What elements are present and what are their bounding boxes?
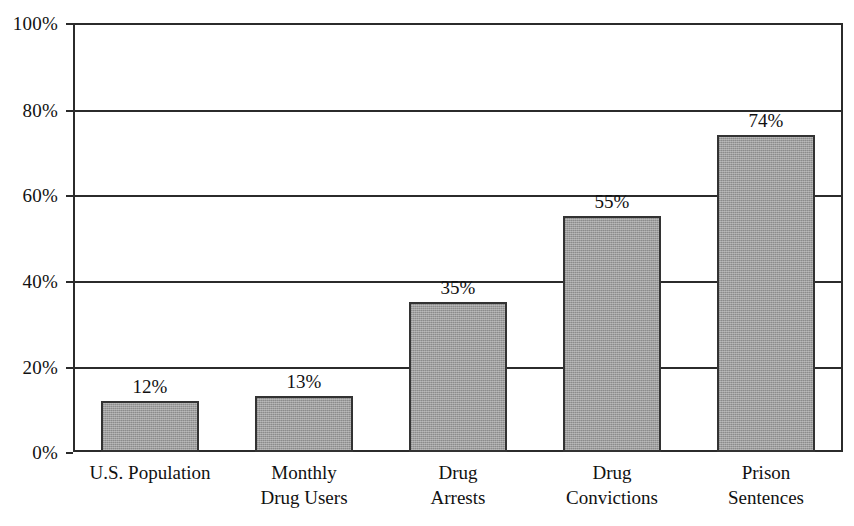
y-axis-tick-20: [66, 367, 73, 369]
bar-slot-drug-arrests: 35%: [381, 23, 535, 452]
y-axis-tick-label-0: 0%: [0, 443, 58, 462]
bar-value-drug-arrests: 35%: [381, 278, 535, 297]
x-axis-label-line: Drug Users: [227, 485, 381, 510]
x-axis-label-drug-arrests: DrugArrests: [381, 460, 535, 510]
x-axis-label-line: Convictions: [535, 485, 689, 510]
bar-slot-drug-convictions: 55%: [535, 23, 689, 452]
bar-monthly-drug-users[interactable]: [255, 396, 353, 452]
bar-value-drug-convictions: 55%: [535, 192, 689, 211]
bar-slot-monthly-drug-users: 13%: [227, 23, 381, 452]
y-axis-tick-100: [66, 23, 73, 25]
bar-chart: 100% 80% 60% 40% 20% 0% 12% 13% 35% 55%: [0, 0, 854, 526]
bar-prison-sentences[interactable]: [717, 135, 815, 452]
y-axis-tick-label-80: 80%: [0, 101, 58, 120]
x-axis-label-line: U.S. Population: [73, 460, 227, 485]
x-axis-label-prison-sentences: PrisonSentences: [689, 460, 843, 510]
x-axis-label-line: Drug: [535, 460, 689, 485]
bar-value-us-population: 12%: [73, 377, 227, 396]
y-axis-tick-label-100: 100%: [0, 14, 58, 33]
x-axis-label-monthly-drug-users: MonthlyDrug Users: [227, 460, 381, 510]
x-axis-label-line: Sentences: [689, 485, 843, 510]
bar-value-prison-sentences: 74%: [689, 111, 843, 130]
x-axis-labels: U.S. Population MonthlyDrug Users DrugAr…: [73, 460, 843, 520]
x-axis-label-drug-convictions: DrugConvictions: [535, 460, 689, 510]
x-axis-label-us-population: U.S. Population: [73, 460, 227, 485]
x-axis-label-line: Prison: [689, 460, 843, 485]
x-axis-label-line: Arrests: [381, 485, 535, 510]
bar-drug-convictions[interactable]: [563, 216, 661, 452]
bar-us-population[interactable]: [101, 401, 199, 452]
x-axis-label-line: Monthly: [227, 460, 381, 485]
y-axis-tick-label-60: 60%: [0, 186, 58, 205]
bar-slot-prison-sentences: 74%: [689, 23, 843, 452]
y-axis-tick-40: [66, 281, 73, 283]
y-axis-tick-label-40: 40%: [0, 272, 58, 291]
bar-drug-arrests[interactable]: [409, 302, 507, 452]
bar-value-monthly-drug-users: 13%: [227, 372, 381, 391]
x-axis-label-line: Drug: [381, 460, 535, 485]
bar-slot-us-population: 12%: [73, 23, 227, 452]
y-axis-tick-label-20: 20%: [0, 358, 58, 377]
y-axis-tick-60: [66, 195, 73, 197]
y-axis-tick-80: [66, 110, 73, 112]
bars-layer: 12% 13% 35% 55% 74%: [73, 23, 843, 452]
y-axis-tick-0: [66, 452, 73, 454]
